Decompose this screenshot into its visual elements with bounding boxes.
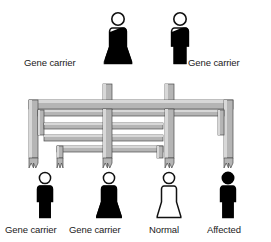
pedigree-canvas <box>0 0 271 242</box>
label-parent-female-carrier: Gene carrier <box>24 57 76 68</box>
descent-pipe-child1 <box>29 100 38 168</box>
label-child-male-carrier: Gene carrier <box>5 224 57 235</box>
rail1-right-stub <box>218 110 224 135</box>
label-child-female-normal: Normal <box>149 224 179 235</box>
descent-pipe-child2 <box>103 109 112 168</box>
figure-parent-male-carrier <box>172 13 189 64</box>
figure-child-male-carrier <box>38 172 53 217</box>
rail1-left-stub <box>38 110 44 135</box>
descent-pipe-child3 <box>165 109 174 168</box>
pedigree-connectors <box>29 84 233 168</box>
descent-pipe-child4 <box>224 100 233 168</box>
figure-child-male-affected <box>221 172 236 217</box>
label-child-male-affected: Affected <box>207 224 241 235</box>
rail4-right-cap <box>157 146 163 158</box>
sibship-main-bus <box>29 100 233 109</box>
label-parent-male-carrier: Gene carrier <box>188 57 240 68</box>
descent-leg-child1-inner <box>57 146 63 168</box>
label-child-female-carrier: Gene carrier <box>69 224 121 235</box>
figure-child-female-normal <box>157 172 181 217</box>
pedigree-diagram: Gene carrier Gene carrier Gene carrier G… <box>0 0 271 242</box>
figure-child-female-carrier <box>97 172 121 217</box>
figure-parent-female-carrier <box>105 13 132 64</box>
sibship-rail-1 <box>38 110 224 116</box>
